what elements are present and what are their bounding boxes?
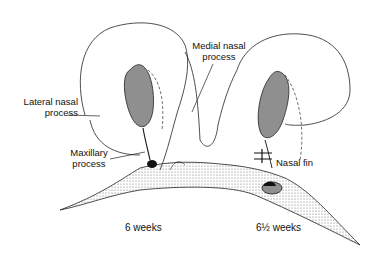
label-nasal-fin: Nasal fin — [276, 157, 313, 168]
label-medial-nasal-process: Medial nasal process — [184, 40, 254, 62]
label-line-2: process — [184, 51, 254, 62]
left-nasal-pit — [124, 65, 153, 127]
caption-6-half-weeks: 6½ weeks — [256, 222, 301, 233]
label-maxillary-process: Maxillary process — [64, 147, 114, 169]
label-line-1: Maxillary — [64, 147, 114, 158]
embryo-face-illustration — [0, 0, 378, 253]
label-line-1: Medial nasal — [184, 40, 254, 51]
right-nasal-pit — [258, 71, 289, 137]
leader-maxillary — [110, 152, 145, 159]
label-line-2: process — [64, 158, 114, 169]
caption-6-weeks: 6 weeks — [125, 222, 162, 233]
label-line-2: process — [4, 107, 78, 118]
maxillary-mass — [60, 162, 360, 245]
label-line-1: Lateral nasal — [4, 96, 78, 107]
label-lateral-nasal-process: Lateral nasal process — [4, 96, 78, 118]
